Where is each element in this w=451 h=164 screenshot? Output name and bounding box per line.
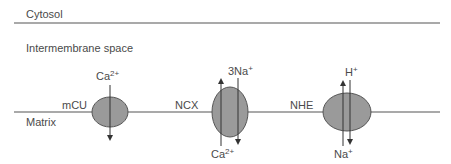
ncx-exchanger-shape [212, 87, 248, 137]
transporter-name: mCU [62, 99, 87, 111]
ion-label-bottom: Na+ [334, 147, 353, 160]
nhe-exchanger-shape [323, 93, 371, 131]
ion-label-bottom: Ca2+ [211, 147, 235, 160]
transporter-name: NCX [175, 99, 199, 111]
mitochondrial-membrane-diagram: Cytosol Intermembrane space Matrix mCU C… [0, 0, 451, 164]
intermembrane-space-label: Intermembrane space [26, 42, 133, 54]
transporter-name: NHE [290, 99, 313, 111]
ion-label-top: 3Na+ [228, 64, 253, 77]
ion-label-top: H+ [345, 65, 358, 78]
ion-label-top: Ca2+ [96, 69, 120, 82]
cytosol-label: Cytosol [26, 8, 63, 20]
transporter-mcu: mCU Ca2+ [62, 69, 128, 138]
matrix-label: Matrix [26, 116, 56, 128]
